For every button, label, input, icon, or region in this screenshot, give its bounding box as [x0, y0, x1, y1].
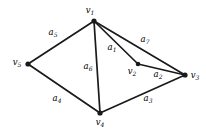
vertex-label-v1: v1 — [86, 6, 95, 17]
vertex-label-v4: v4 — [96, 118, 105, 129]
vertex-label-v2: v2 — [128, 67, 137, 78]
edge-a3 — [100, 75, 185, 113]
vertex-label-v3: v3 — [191, 71, 200, 82]
vertex-dot-v2 — [136, 62, 141, 67]
edge-label-a6: a6 — [84, 62, 93, 73]
edge-label-a7: a7 — [141, 35, 150, 46]
edge-label-a3: a3 — [144, 94, 153, 105]
graph-diagram: v1 v2 v3 v4 v5 a1 a2 a3 a4 a5 a6 a7 — [0, 0, 206, 133]
vertex-dot-v5 — [25, 61, 30, 66]
vertex-label-v5: v5 — [13, 58, 22, 69]
vertex-dot-v1 — [91, 18, 96, 23]
vertex-dot-v4 — [97, 110, 102, 115]
edge-a6 — [94, 21, 100, 113]
vertex-dot-v3 — [182, 72, 187, 77]
edge-label-a4: a4 — [53, 94, 62, 105]
edge-a5 — [28, 21, 94, 64]
edge-label-a2: a2 — [154, 70, 163, 81]
edge-label-a5: a5 — [49, 28, 58, 39]
edge-label-a1: a1 — [108, 43, 117, 54]
graph-canvas — [0, 0, 206, 133]
